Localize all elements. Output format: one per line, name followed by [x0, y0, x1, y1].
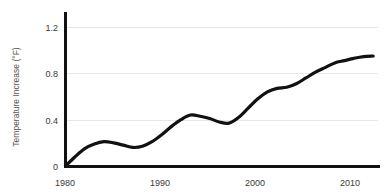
x-tick-label-2000: 2000 [245, 178, 265, 188]
y-tick-label-0-4: 0.4 [45, 116, 58, 126]
x-tick-label-1990: 1990 [150, 178, 170, 188]
x-tick-label-1980: 1980 [55, 178, 75, 188]
y-tick-label-0: 0 [53, 162, 58, 172]
x-tick-label-2010: 2010 [340, 178, 360, 188]
y-tick-label-1-2: 1.2 [45, 23, 58, 33]
chart-plot-area: 1.2 0.8 0.4 0 1980 1990 2000 2010 Temper… [0, 0, 384, 196]
y-axis-title: Temperature Increase (°F) [11, 47, 21, 146]
temperature-increase-line-chart: 1.2 0.8 0.4 0 1980 1990 2000 2010 Temper… [0, 0, 384, 196]
y-tick-label-0-8: 0.8 [45, 69, 58, 79]
